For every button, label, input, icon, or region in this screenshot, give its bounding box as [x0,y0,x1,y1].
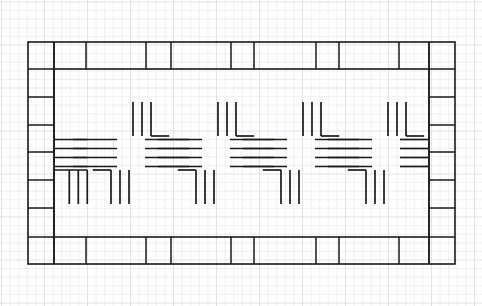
left-band-dividers [28,42,54,264]
bottom-band-dividers [54,237,429,264]
frame-outer-rect [28,42,455,264]
right-band-dividers [429,42,455,264]
interior-cross-motifs [55,102,428,204]
inner-frame-rectangle [54,69,429,237]
outer-frame-rectangle [28,42,455,264]
frame-inner-rect [54,69,429,237]
drawing-canvas [0,0,482,306]
top-band-dividers [54,42,429,69]
technical-drawing [0,0,482,306]
